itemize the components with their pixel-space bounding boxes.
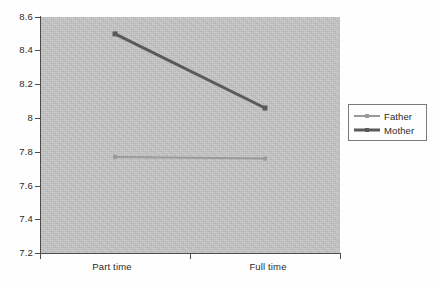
y-axis-tick: [35, 118, 40, 119]
legend-line-icon-mother: [354, 124, 380, 136]
y-axis-label-7-4: 7.4: [1, 214, 33, 224]
y-axis-label-7-2: 7.2: [1, 248, 33, 258]
legend-label-father: Father: [384, 111, 412, 122]
y-axis-label-8-2: 8.2: [1, 79, 33, 89]
y-axis-line: [40, 16, 41, 254]
y-axis-tick: [35, 50, 40, 51]
y-axis-label-8-6: 8.6: [1, 12, 33, 22]
legend-line-icon-father: [354, 110, 380, 122]
x-axis-tick: [40, 254, 41, 259]
x-axis-label-full-time: Full time: [228, 261, 308, 272]
y-axis-label-8-4: 8.4: [1, 45, 33, 55]
y-axis-tick: [35, 152, 40, 153]
y-axis-label-7-6: 7.6: [1, 181, 33, 191]
legend-label-mother: Mother: [384, 125, 414, 136]
y-axis-tick: [35, 219, 40, 220]
y-axis-tick: [35, 17, 40, 18]
line-chart: 8.6 8.4 8.2 8 7.8 7.6 7.4 7.2 Part time …: [0, 0, 438, 288]
plot-area: [40, 17, 340, 253]
x-axis-label-part-time: Part time: [72, 261, 152, 272]
y-axis-label-7-8: 7.8: [1, 147, 33, 157]
legend-entry-father: Father: [349, 109, 426, 123]
x-axis-tick: [190, 254, 191, 259]
y-axis-tick: [35, 84, 40, 85]
y-axis-label-8: 8: [1, 113, 33, 123]
x-axis-tick: [340, 254, 341, 259]
legend-entry-mother: Mother: [349, 123, 426, 137]
y-axis-tick: [35, 186, 40, 187]
legend: Father Mother: [348, 104, 427, 141]
